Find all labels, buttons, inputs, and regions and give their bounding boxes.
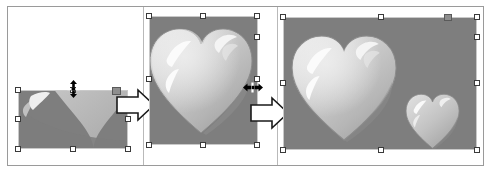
panel-3-handle-bottom-center[interactable] (378, 147, 384, 153)
panel-2-handle-top-right[interactable] (254, 13, 260, 19)
panel-2-handle-middle-left[interactable] (146, 76, 152, 82)
screenshot-root (0, 0, 492, 174)
panel-2-handle-bottom-left[interactable] (146, 142, 152, 148)
panel-1-handle-middle-left[interactable] (15, 116, 21, 122)
panel-divider-2 (277, 7, 278, 165)
panel-3-handle-top-right-active[interactable] (444, 14, 452, 21)
panel-1-handle-bottom-left[interactable] (15, 146, 21, 152)
panel-3-handle-upper-right[interactable] (474, 34, 480, 40)
panel-2-handle-bottom-center[interactable] (200, 142, 206, 148)
panel-2-handle-top-center[interactable] (200, 13, 206, 19)
panel-1-selection-box (18, 90, 128, 149)
panel-2-handle-bottom-right[interactable] (254, 142, 260, 148)
panel-3-selection-box (283, 17, 477, 150)
panel-3-handle-top-right[interactable] (474, 14, 480, 20)
panel-3-handle-top-center[interactable] (378, 14, 384, 20)
panel-3-handle-middle-left[interactable] (280, 80, 286, 86)
panel-1-handle-top-left[interactable] (15, 87, 21, 93)
panel-1-handle-bottom-center[interactable] (70, 146, 76, 152)
panel-divider-1 (143, 7, 144, 165)
panel-3-handle-bottom-left[interactable] (280, 147, 286, 153)
panel-2-handle-upper-right[interactable] (254, 34, 260, 40)
panel-1-handle-top-center[interactable] (70, 87, 76, 93)
panel-2-selection-box (149, 16, 258, 145)
panel-3-handle-middle-right[interactable] (474, 80, 480, 86)
panel-1-handle-bottom-right[interactable] (125, 146, 131, 152)
panel-2-handle-middle-right[interactable] (254, 76, 260, 82)
panel-2-handle-top-left[interactable] (146, 13, 152, 19)
panel-3-handle-bottom-right[interactable] (474, 147, 480, 153)
panel-3-handle-top-left[interactable] (280, 14, 286, 20)
